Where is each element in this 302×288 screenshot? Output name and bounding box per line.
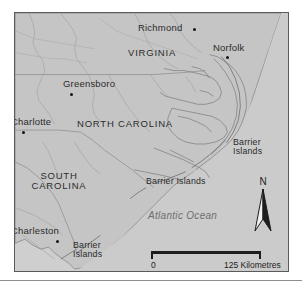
feature-line-2: Islands (73, 249, 102, 259)
city-dot-charleston (56, 240, 59, 243)
north-arrow-icon (252, 189, 274, 233)
feature-label-barrier-islands-center: Barrier Islands (146, 177, 206, 186)
city-dot-charlotte (22, 131, 25, 134)
city-label-norfolk: Norfolk (213, 43, 245, 53)
footer-rule (0, 280, 302, 281)
city-label-charleston: Charleston (14, 226, 59, 236)
city-label-greensboro: Greensboro (63, 79, 115, 89)
map-page: Richmond Norfolk VIRGINIA Greensboro Cha… (0, 0, 302, 288)
feature-line-2: Islands (233, 146, 262, 156)
state-label-virginia: VIRGINIA (128, 48, 176, 58)
scale-bar: 0 125 Kilometres (151, 249, 267, 271)
state-label-line-2: CAROLINA (32, 180, 87, 191)
city-dot-richmond (193, 28, 196, 31)
scale-tick-start (151, 251, 153, 259)
scale-label-max: 125 Kilometres (224, 260, 281, 270)
feature-label-barrier-islands-right: Barrier Islands (233, 138, 277, 156)
scale-bar-line (151, 251, 261, 254)
city-label-charlotte: Charlotte (14, 117, 51, 127)
map-frame: Richmond Norfolk VIRGINIA Greensboro Cha… (14, 12, 289, 272)
city-dot-norfolk (226, 56, 229, 59)
state-label-north-carolina: NORTH CAROLINA (77, 119, 173, 129)
feature-label-barrier-islands-bottom: Barrier Islands (73, 241, 117, 259)
north-arrow: N (252, 176, 274, 234)
state-label-south-carolina: SOUTH CAROLINA (27, 171, 91, 191)
scale-tick-end (259, 251, 261, 259)
city-label-richmond: Richmond (138, 23, 182, 33)
ocean-label-atlantic: Atlantic Ocean (148, 211, 217, 222)
north-arrow-label: N (252, 176, 274, 187)
scale-label-zero: 0 (151, 260, 156, 270)
city-dot-greensboro (70, 93, 73, 96)
